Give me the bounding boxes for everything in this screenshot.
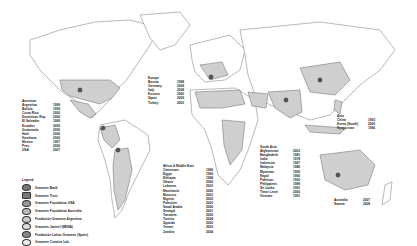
philippines <box>334 100 342 114</box>
europe-list: Europe Bosnia1998 Germany2009 Italy2008 … <box>148 76 184 105</box>
bank-icon <box>22 184 31 191</box>
americas-list: Americas Argentina1999 Bolivia1999 Costa… <box>22 99 60 152</box>
oceania-list: Australia2007 Samoa2008 <box>334 198 370 206</box>
foundation-usa-icon <box>22 200 31 207</box>
legend-item: Grameen Trust <box>22 192 88 200</box>
legend-item: Grameen Creative Lab <box>22 239 88 246</box>
south-asia-highlight <box>268 90 302 118</box>
legend-item: Fundación Grameen Argentina <box>22 215 88 223</box>
map-marker <box>284 98 288 102</box>
list-item: Turkey2003 <box>148 101 184 105</box>
list-item: Samoa2008 <box>334 202 370 206</box>
new-zealand <box>382 182 392 205</box>
map-marker <box>78 88 82 92</box>
map-marker <box>116 148 120 152</box>
trust-icon <box>22 192 31 199</box>
legend-item: Grameen Foundation USA <box>22 200 88 208</box>
jameel-icon <box>22 223 31 230</box>
list-item: Kyrgyzstan1996 <box>337 126 375 130</box>
map-marker <box>209 75 213 79</box>
list-item: USA2007 <box>22 148 60 152</box>
usa-region <box>60 80 120 104</box>
map-marker <box>336 173 340 177</box>
fundacion-argentina-icon <box>22 216 31 223</box>
legend-item: Grameen Foundation Australia <box>22 207 88 215</box>
foundation-australia-icon <box>22 208 31 215</box>
map-marker <box>318 78 322 82</box>
south-asia-list: South Asia Afghanistan2003 Bangladesh198… <box>260 145 300 198</box>
creative-lab-icon <box>22 239 31 246</box>
africa-middle-east-list: Africa & Middle East Cameroon1996 Egypt1… <box>163 164 213 234</box>
bolivia-argentina-region <box>113 148 132 210</box>
legend-item: Grameen Jameel (MENA) <box>22 223 88 231</box>
australia <box>320 150 375 190</box>
map-marker <box>101 126 105 130</box>
legend-title: Legend <box>22 178 88 182</box>
north-africa-highlight <box>195 90 245 108</box>
list-item: Zambia2004 <box>163 230 213 234</box>
legend-item: Fundación Latino Grameen (Spain) <box>22 231 88 239</box>
legend-item: Grameen Bank <box>22 184 88 192</box>
list-item: Vietnam1991 <box>260 194 300 198</box>
east-asia-list: Asia China1993 Korea (South)2009 Kyrgyzs… <box>337 114 375 130</box>
legend: Legend Grameen Bank Grameen Trust Gramee… <box>22 178 88 246</box>
latino-icon <box>22 231 31 238</box>
